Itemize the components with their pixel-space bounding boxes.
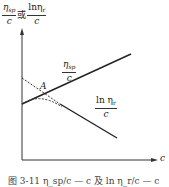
y-label-or: 或 — [17, 8, 26, 21]
x-axis-label: c — [160, 153, 165, 163]
low-conc-curve — [22, 99, 62, 107]
ln-eta-r-line-label: ln ηr c — [95, 96, 117, 119]
point-a-label: A — [40, 81, 47, 91]
y-label-frac-eta-sp: ηsp c — [2, 3, 16, 26]
figure-caption: 图 3-11 η_sp/c — c 及 ln η_r/c — c — [8, 174, 159, 187]
x-axis-arrow-icon — [151, 158, 158, 162]
y-axis-arrow-icon — [20, 28, 24, 35]
eta-sp-line-label: ηsp c — [62, 60, 76, 83]
y-label-frac-ln-eta-r: lnηr c — [27, 3, 46, 26]
y-axis-label: ηsp c 或 lnηr c — [2, 3, 46, 26]
diagram-canvas — [0, 0, 169, 187]
